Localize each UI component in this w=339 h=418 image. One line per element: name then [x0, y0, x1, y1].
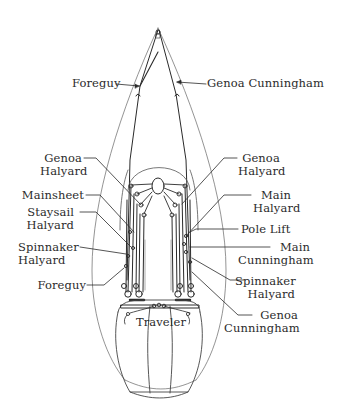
label-traveler: Traveler: [130, 316, 192, 329]
label-left-foreguy: Foreguy: [30, 279, 86, 292]
label-right-genoa-cunningham: Genoa Cunningham: [224, 309, 298, 335]
label-left-genoa-halyard: Genoa Halyard: [40, 152, 82, 178]
label-right-main-cunningham: Main Cunningham: [238, 241, 310, 267]
label-right-pole-lift: Pole Lift: [241, 223, 290, 236]
label-top-genoa-cunningham: Genoa Cunningham: [207, 77, 324, 90]
label-left-staysail-halyard: Staysail Halyard: [22, 206, 74, 232]
label-top-foreguy: Foreguy: [72, 77, 121, 90]
label-right-genoa-halyard: Genoa Halyard: [238, 152, 284, 178]
deck-organizers: [129, 184, 187, 217]
label-left-mainsheet: Mainsheet: [20, 189, 84, 202]
mast-base: [152, 178, 164, 194]
line-blocks: [124, 230, 191, 267]
label-left-spinnaker-halyard: Spinnaker Halyard: [18, 241, 79, 267]
label-right-spinnaker-halyard: Spinnaker Halyard: [235, 275, 295, 301]
label-right-main-halyard: Main Halyard: [253, 189, 299, 215]
